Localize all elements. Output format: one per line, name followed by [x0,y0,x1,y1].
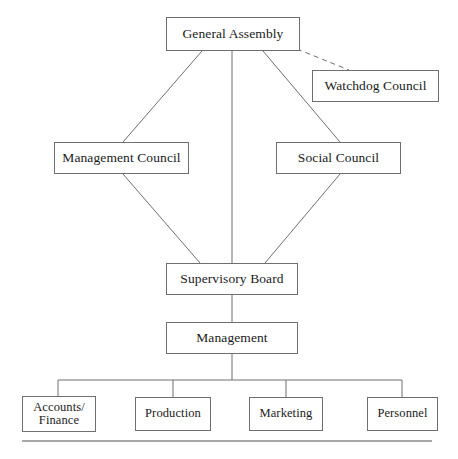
node-production-label: Production [141,407,205,421]
node-personnel-label: Personnel [373,407,431,421]
node-production[interactable]: Production [135,397,211,431]
node-general-assembly-label: General Assembly [179,27,288,42]
connector-lines-layer [0,0,458,459]
node-accounts-finance[interactable]: Accounts/ Finance [22,396,96,432]
node-personnel[interactable]: Personnel [367,397,438,431]
node-management-council[interactable]: Management Council [54,142,189,174]
node-supervisory-board[interactable]: Supervisory Board [166,263,298,295]
node-management-label: Management [192,331,271,346]
node-social-council[interactable]: Social Council [276,142,401,174]
node-watchdog-council[interactable]: Watchdog Council [312,70,439,102]
node-general-assembly[interactable]: General Assembly [166,17,300,51]
edge-general-assembly-to-watchdog-council [297,49,349,70]
node-watchdog-council-label: Watchdog Council [320,79,430,94]
node-marketing-label: Marketing [256,407,317,421]
node-management[interactable]: Management [166,322,298,354]
edge-management-council-to-supervisory-board [123,174,200,263]
edge-social-council-to-supervisory-board [265,174,340,263]
node-accounts-finance-label: Accounts/ Finance [29,401,89,428]
org-chart-diagram: General Assembly Watchdog Council Manage… [0,0,458,459]
edge-general-assembly-to-management-council [123,51,202,142]
node-social-council-label: Social Council [294,151,383,166]
node-management-council-label: Management Council [58,151,184,166]
node-marketing[interactable]: Marketing [249,397,323,431]
node-supervisory-board-label: Supervisory Board [176,272,287,287]
